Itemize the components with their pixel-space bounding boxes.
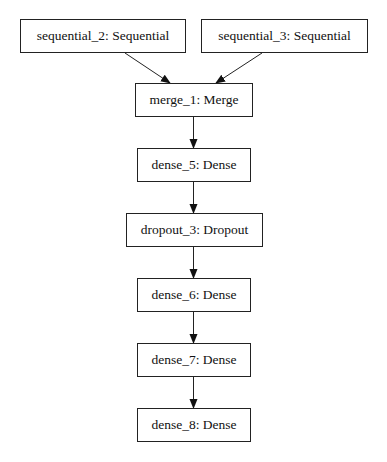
node-dense-8: dense_8: Dense: [137, 408, 251, 442]
node-label: merge_1: Merge: [149, 92, 238, 108]
node-label: dropout_3: Dropout: [141, 222, 249, 238]
edge-sequential-3-to-merge-1: [216, 53, 262, 83]
node-merge-1: merge_1: Merge: [135, 83, 253, 117]
node-dropout-3: dropout_3: Dropout: [126, 213, 263, 247]
node-label: sequential_2: Sequential: [37, 28, 169, 44]
model-graph-canvas: sequential_2: Sequential sequential_3: S…: [0, 0, 387, 462]
node-label: dense_5: Dense: [151, 157, 236, 173]
node-label: dense_8: Dense: [151, 417, 236, 433]
node-label: dense_7: Dense: [151, 352, 236, 368]
node-dense-7: dense_7: Dense: [137, 343, 251, 377]
node-dense-6: dense_6: Dense: [137, 278, 251, 312]
node-sequential-3: sequential_3: Sequential: [201, 19, 368, 53]
edge-sequential-2-to-merge-1: [125, 53, 170, 83]
node-label: sequential_3: Sequential: [218, 28, 350, 44]
node-sequential-2: sequential_2: Sequential: [20, 19, 186, 53]
node-label: dense_6: Dense: [151, 287, 236, 303]
node-dense-5: dense_5: Dense: [137, 148, 251, 182]
